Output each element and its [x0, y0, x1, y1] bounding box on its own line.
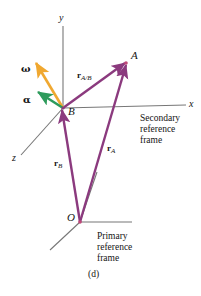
- point-A-dot: [124, 61, 128, 65]
- vector-r-AB-label: rA/B: [77, 71, 92, 80]
- z-axis-line: [21, 108, 63, 155]
- vector-r-AB-subscript: A/B: [81, 74, 92, 82]
- kinematics-reference-frame-diagram: y x z A B O rA/B rA rB ω α Secondary ref…: [0, 0, 201, 296]
- vector-omega-label: ω: [21, 64, 31, 74]
- x-axis-label: x: [189, 99, 193, 109]
- angular-vectors: [36, 63, 63, 108]
- vector-alpha-label: α: [23, 95, 31, 105]
- z-axis-label: z: [12, 153, 16, 163]
- point-O-dot: [78, 220, 82, 224]
- primary-reference-frame-annotation: Primary reference frame: [97, 231, 132, 265]
- vector-r-B-label: rB: [54, 159, 62, 168]
- secondary-frame-line-2: reference: [140, 124, 180, 135]
- point-O-label: O: [67, 212, 75, 223]
- point-B-label: B: [68, 106, 75, 117]
- primary-frame-line-1: Primary: [97, 231, 132, 242]
- secondary-frame-line-3: frame: [140, 135, 180, 146]
- vector-r-A-label: rA: [107, 144, 115, 153]
- vector-r-A-subscript: A: [111, 147, 115, 155]
- position-vectors: [62, 63, 126, 222]
- y-axis-label: y: [59, 13, 63, 23]
- secondary-frame-line-1: Secondary: [140, 113, 180, 124]
- vector-r-B-subscript: B: [58, 162, 62, 170]
- vector-r-A: [80, 65, 126, 222]
- figure-caption: (d): [88, 270, 99, 280]
- point-A-label: A: [131, 50, 138, 61]
- vector-r-B: [62, 110, 80, 222]
- secondary-reference-frame-annotation: Secondary reference frame: [140, 113, 180, 147]
- vector-omega: [36, 63, 63, 108]
- primary-frame-line-2: reference: [97, 242, 132, 253]
- point-B-dot: [61, 106, 64, 109]
- x-axis-line: [63, 105, 186, 108]
- primary-z-axis-line: [50, 222, 80, 250]
- primary-frame-line-3: frame: [97, 253, 132, 264]
